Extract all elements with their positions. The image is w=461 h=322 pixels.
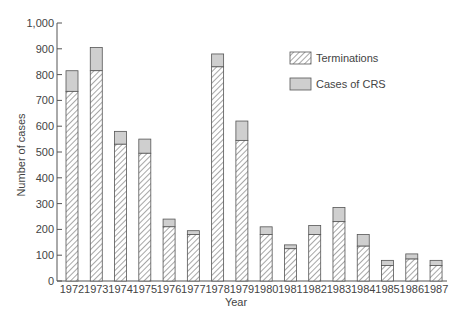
- bar-crs: [139, 139, 151, 153]
- legend: Terminations Cases of CRS: [290, 52, 386, 90]
- y-tick-label: 0: [48, 275, 54, 287]
- x-axis-label: Year: [225, 296, 248, 308]
- legend-label-terminations: Terminations: [316, 52, 379, 64]
- y-tick-label: 400: [36, 172, 54, 184]
- bar-group-1975: [139, 139, 151, 281]
- bar-group-1976: [163, 219, 175, 281]
- bar-terminations: [90, 71, 102, 281]
- y-tick-label: 700: [36, 94, 54, 106]
- x-tick-label: 1984: [351, 283, 375, 295]
- bar-crs: [357, 235, 369, 247]
- bar-group-1983: [333, 207, 345, 281]
- bar-group-1982: [309, 226, 321, 281]
- x-tick-label: 1982: [302, 283, 326, 295]
- bar-terminations: [333, 222, 345, 281]
- bar-group-1972: [66, 71, 78, 281]
- bar-terminations: [163, 227, 175, 281]
- bar-group-1980: [260, 227, 272, 281]
- bar-group-1984: [357, 235, 369, 281]
- bar-crs: [236, 121, 248, 140]
- y-tick-label: 800: [36, 69, 54, 81]
- x-tick-label: 1976: [157, 283, 181, 295]
- y-tick-label: 200: [36, 223, 54, 235]
- y-axis: 01002003004005006007008009001,000: [26, 17, 62, 287]
- bar-terminations: [139, 153, 151, 281]
- legend-label-crs: Cases of CRS: [316, 78, 386, 90]
- bar-terminations: [187, 235, 199, 281]
- bar-crs: [333, 207, 345, 221]
- bar-group-1979: [236, 121, 248, 281]
- bar-crs: [284, 245, 296, 249]
- x-tick-label: 1972: [60, 283, 84, 295]
- legend-swatch-terminations: [290, 52, 311, 64]
- bar-crs: [406, 254, 418, 259]
- bar-group-1986: [406, 254, 418, 281]
- x-tick-label: 1986: [400, 283, 424, 295]
- bar-crs: [212, 54, 224, 67]
- bar-terminations: [66, 91, 78, 281]
- bar-crs: [66, 71, 78, 92]
- x-tick-label: 1980: [254, 283, 278, 295]
- y-tick-label: 100: [36, 249, 54, 261]
- bar-terminations: [236, 140, 248, 281]
- x-tick-label: 1977: [181, 283, 205, 295]
- x-tick-label: 1979: [230, 283, 254, 295]
- x-tick-label: 1978: [205, 283, 229, 295]
- x-tick-label: 1975: [133, 283, 157, 295]
- bar-group-1978: [212, 54, 224, 281]
- x-tick-label: 1985: [375, 283, 399, 295]
- bar-crs: [382, 260, 394, 265]
- y-tick-label: 600: [36, 120, 54, 132]
- bar-crs: [115, 131, 127, 144]
- bar-group-1973: [90, 48, 102, 281]
- bar-terminations: [212, 67, 224, 281]
- bar-group-1987: [430, 260, 442, 281]
- y-tick-label: 300: [36, 198, 54, 210]
- bar-terminations: [406, 259, 418, 281]
- bar-terminations: [115, 144, 127, 281]
- bar-terminations: [430, 266, 442, 281]
- x-tick-label: 1974: [108, 283, 132, 295]
- bar-terminations: [284, 249, 296, 281]
- y-tick-label: 1,000: [26, 17, 54, 29]
- bar-group-1981: [284, 245, 296, 281]
- bar-terminations: [382, 266, 394, 281]
- y-axis-label: Number of cases: [15, 113, 27, 197]
- bar-crs: [260, 227, 272, 235]
- x-axis: 1972197319741975197619771978197919801981…: [57, 281, 448, 295]
- bar-crs: [163, 219, 175, 227]
- bar-crs: [309, 226, 321, 235]
- x-tick-label: 1983: [327, 283, 351, 295]
- x-tick-label: 1973: [84, 283, 108, 295]
- bar-group-1985: [382, 260, 394, 281]
- x-tick-label: 1981: [278, 283, 302, 295]
- y-tick-label: 900: [36, 43, 54, 55]
- bar-terminations: [309, 235, 321, 281]
- bar-terminations: [260, 235, 272, 281]
- bar-crs: [430, 260, 442, 265]
- bar-crs: [90, 48, 102, 71]
- stacked-bar-chart: 01002003004005006007008009001,000 197219…: [0, 0, 461, 322]
- y-tick-label: 500: [36, 146, 54, 158]
- x-tick-label: 1987: [424, 283, 448, 295]
- bar-terminations: [357, 246, 369, 281]
- legend-swatch-crs: [290, 78, 311, 90]
- bar-crs: [187, 231, 199, 235]
- bar-group-1974: [115, 131, 127, 281]
- bar-group-1977: [187, 231, 199, 281]
